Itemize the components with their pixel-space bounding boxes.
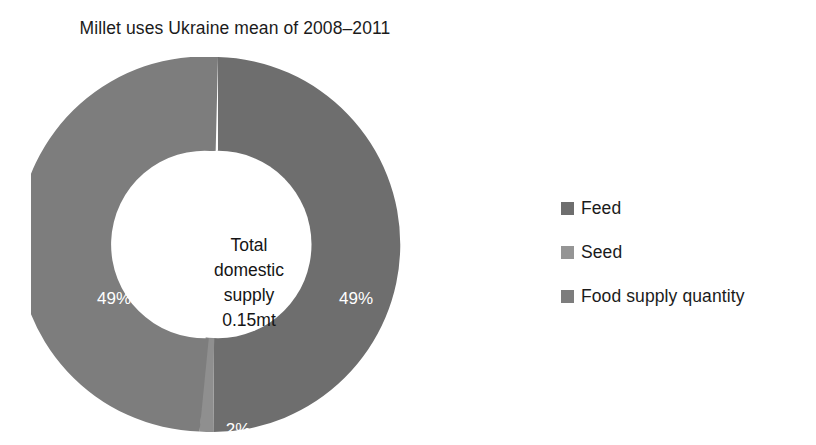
donut-chart: Millet uses Ukraine mean of 2008–2011 49… [0, 0, 816, 445]
center-annotation-line-4: 0.15mt [164, 308, 334, 333]
legend-label-seed: Seed [581, 242, 622, 263]
center-annotation: Total domestic supply 0.15mt [164, 233, 334, 333]
chart-legend: Feed Seed Food supply quantity [561, 186, 801, 318]
legend-label-feed: Feed [581, 198, 621, 219]
center-annotation-line-1: Total [164, 233, 334, 258]
legend-swatch-icon-seed [561, 246, 574, 259]
legend-label-food-supply-quantity: Food supply quantity [581, 286, 745, 307]
legend-swatch-icon-feed [561, 202, 574, 215]
legend-swatch-icon-food-supply-quantity [561, 290, 574, 303]
legend-item-food-supply-quantity[interactable]: Food supply quantity [561, 274, 801, 318]
slice-label-food-supply-quantity: 49% [84, 289, 144, 309]
legend-item-seed[interactable]: Seed [561, 230, 801, 274]
legend-item-feed[interactable]: Feed [561, 186, 801, 230]
donut-plot-area: 49% 2% 49% Total domestic supply 0.15mt [31, 57, 405, 432]
slice-label-seed: 2% [213, 420, 263, 440]
center-annotation-line-2: domestic [164, 258, 334, 283]
chart-title: Millet uses Ukraine mean of 2008–2011 [0, 18, 470, 39]
slice-label-feed: 49% [326, 289, 386, 309]
center-annotation-line-3: supply [164, 283, 334, 308]
